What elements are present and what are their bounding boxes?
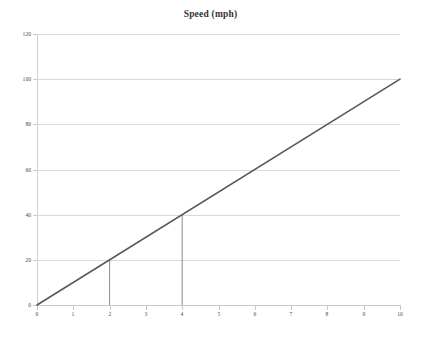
x-tick-label: 1 [62, 311, 84, 317]
x-tick-mark [182, 306, 183, 310]
y-tick-mark [33, 215, 37, 216]
x-tick-label: 2 [99, 311, 121, 317]
x-tick-mark [255, 306, 256, 310]
y-tick-mark [33, 34, 37, 35]
y-tick-mark [33, 170, 37, 171]
y-tick-label: 120 [3, 31, 31, 37]
x-tick-mark [364, 306, 365, 310]
x-tick-label: 8 [316, 311, 338, 317]
gridline-y [37, 170, 400, 171]
gridline-y [37, 260, 400, 261]
x-tick-mark [219, 306, 220, 310]
chart-container: Speed (mph) 020406080100120 012345678910 [0, 0, 421, 339]
y-tick-mark [33, 260, 37, 261]
x-tick-label: 5 [208, 311, 230, 317]
gridline-y [37, 34, 400, 35]
x-tick-mark [37, 306, 38, 310]
y-tick-label: 100 [3, 76, 31, 82]
gridline-y [37, 124, 400, 125]
gridline-y [37, 215, 400, 216]
x-tick-label: 4 [171, 311, 193, 317]
x-tick-label: 10 [389, 311, 411, 317]
x-tick-label: 9 [353, 311, 375, 317]
x-tick-mark [327, 306, 328, 310]
y-tick-label: 40 [3, 212, 31, 218]
y-tick-label: 20 [3, 257, 31, 263]
x-tick-mark [291, 306, 292, 310]
x-tick-label: 0 [26, 311, 48, 317]
y-tick-label: 60 [3, 167, 31, 173]
x-tick-mark [400, 306, 401, 310]
x-tick-label: 3 [135, 311, 157, 317]
y-tick-label: 80 [3, 121, 31, 127]
x-tick-label: 7 [280, 311, 302, 317]
y-tick-mark [33, 124, 37, 125]
y-tick-label: 0 [3, 302, 31, 308]
x-tick-mark [110, 306, 111, 310]
y-tick-mark [33, 79, 37, 80]
x-tick-mark [73, 306, 74, 310]
x-tick-mark [146, 306, 147, 310]
x-tick-label: 6 [244, 311, 266, 317]
gridline-y [37, 79, 400, 80]
chart-title: Speed (mph) [0, 9, 421, 19]
